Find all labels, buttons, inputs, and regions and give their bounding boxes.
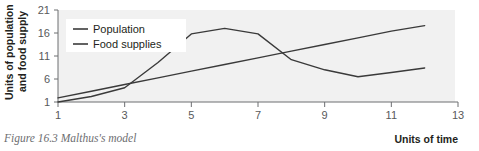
y-tick-label: 16 xyxy=(38,27,50,39)
x-axis-title: Units of time xyxy=(394,133,458,145)
chart-legend: Population Food supplies xyxy=(66,19,186,52)
y-tick-label: 1 xyxy=(44,96,50,108)
figure-malthus-model: 16111621 135791113 Population Food suppl… xyxy=(0,0,479,151)
x-tick-label: 7 xyxy=(255,109,261,121)
x-axis-ticks: 135791113 xyxy=(55,102,464,121)
legend-label-food-supplies: Food supplies xyxy=(93,38,162,50)
x-tick-label: 13 xyxy=(452,109,464,121)
y-axis-ticks: 16111621 xyxy=(38,4,58,108)
x-tick-label: 9 xyxy=(322,109,328,121)
x-tick-label: 11 xyxy=(386,109,397,121)
y-tick-label: 6 xyxy=(44,73,50,85)
y-axis-title-line1: Units of population xyxy=(3,4,15,100)
y-axis-title-line2: and food supply xyxy=(16,11,28,92)
y-tick-label: 11 xyxy=(39,50,50,62)
y-tick-label: 21 xyxy=(38,4,50,16)
x-tick-label: 3 xyxy=(122,109,128,121)
x-tick-label: 5 xyxy=(188,109,194,121)
legend-label-population: Population xyxy=(93,23,145,35)
chart-canvas: 16111621 135791113 Population Food suppl… xyxy=(0,0,479,151)
figure-caption: Figure 16.3 Malthus's model xyxy=(3,132,136,145)
x-tick-label: 1 xyxy=(55,109,61,121)
